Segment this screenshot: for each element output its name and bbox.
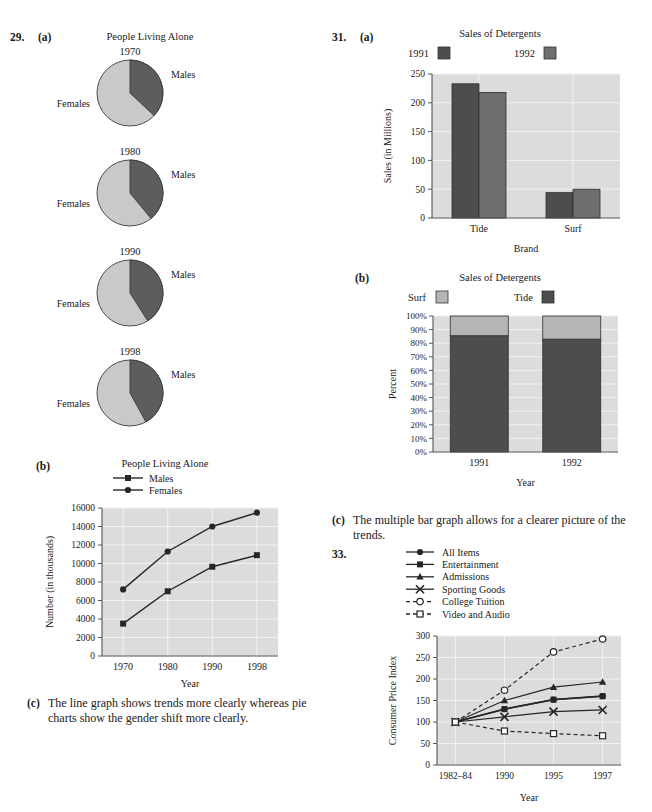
question-29-part-b-label: (b)	[36, 460, 50, 472]
line-chart-left-legend: MalesFemales	[105, 471, 245, 497]
svg-text:1998: 1998	[120, 346, 141, 357]
line-chart-left-title: People Living Alone	[70, 458, 260, 469]
svg-text:Sales (in Millions): Sales (in Millions)	[382, 109, 394, 183]
svg-text:1991: 1991	[469, 457, 489, 468]
pie-label-females: Females	[57, 398, 90, 409]
svg-text:Percent: Percent	[387, 369, 398, 399]
svg-text:Males: Males	[171, 369, 196, 380]
svg-text:10%: 10%	[411, 434, 428, 444]
svg-text:100: 100	[411, 156, 426, 166]
svg-text:1991: 1991	[408, 48, 429, 59]
svg-text:100%: 100%	[406, 311, 428, 321]
pie-label-females: Females	[57, 98, 90, 109]
svg-text:1982–84: 1982–84	[439, 771, 473, 781]
stacked-chart-title: Sales of Detergents	[400, 272, 600, 283]
svg-text:50%: 50%	[411, 379, 428, 389]
svg-text:12000: 12000	[71, 540, 95, 550]
svg-text:8000: 8000	[76, 577, 95, 587]
svg-text:300: 300	[416, 631, 431, 641]
cpi-chart-legend: All ItemsEntertainmentAdmissionsSporting…	[400, 545, 600, 625]
question-29-answer-text: The line graph shows trends more clearly…	[48, 696, 310, 725]
pie-label-females: Females	[57, 298, 90, 309]
question-31-answer-text: The multiple bar graph allows for a clea…	[353, 513, 633, 542]
svg-text:Males: Males	[149, 473, 174, 484]
svg-text:50: 50	[416, 185, 426, 195]
line-chart-consumer-price-index: 0501001502002503001982–84199019951997Yea…	[385, 630, 635, 805]
question-31-part-a-label: (a)	[360, 31, 373, 43]
pie-svg: 1970MalesFemales1980MalesFemales1990Male…	[60, 45, 250, 450]
svg-text:1970: 1970	[113, 661, 133, 672]
line-chart-people-living-alone: 0200040006000800010000120001400016000197…	[40, 500, 290, 690]
svg-text:1970: 1970	[120, 46, 141, 57]
svg-text:2000: 2000	[76, 633, 95, 643]
svg-text:Males: Males	[171, 269, 196, 280]
svg-text:Number (in thousands): Number (in thousands)	[44, 536, 56, 628]
stacked-chart-legend: SurfTide	[400, 288, 610, 306]
svg-text:Males: Males	[171, 69, 196, 80]
svg-text:1998: 1998	[247, 661, 267, 672]
svg-text:Males: Males	[171, 169, 196, 180]
bar-chart-legend: 19911992	[400, 44, 610, 62]
svg-text:Surf: Surf	[408, 292, 427, 303]
svg-text:Tide: Tide	[470, 223, 489, 234]
svg-text:All Items: All Items	[442, 547, 480, 558]
pie-label-females: Females	[57, 198, 90, 209]
svg-text:50: 50	[421, 739, 431, 749]
pie-chart-group: 1970MalesFemales1980MalesFemales1990Male…	[60, 45, 250, 450]
svg-text:1990: 1990	[495, 771, 514, 781]
pie-group-title: People Living Alone	[60, 31, 240, 42]
svg-text:1997: 1997	[593, 771, 612, 781]
svg-text:Sporting Goods: Sporting Goods	[442, 584, 505, 595]
svg-text:Entertainment: Entertainment	[442, 559, 499, 570]
svg-text:1992: 1992	[514, 48, 535, 59]
svg-text:10000: 10000	[71, 559, 95, 569]
svg-text:Surf: Surf	[564, 223, 582, 234]
svg-text:80%: 80%	[411, 338, 428, 348]
svg-text:Year: Year	[516, 477, 535, 488]
svg-text:0: 0	[425, 760, 430, 770]
svg-text:College Tuition: College Tuition	[442, 596, 505, 607]
svg-text:70%: 70%	[411, 352, 428, 362]
svg-text:150: 150	[416, 696, 431, 706]
svg-text:Consumer Price Index: Consumer Price Index	[387, 656, 398, 745]
svg-text:1995: 1995	[544, 771, 563, 781]
question-number-31: 31.	[332, 31, 346, 43]
svg-text:Females: Females	[149, 485, 182, 496]
svg-text:250: 250	[411, 69, 426, 79]
answer-key-page: 29. (a) People Living Alone 1970MalesFem…	[0, 0, 652, 812]
svg-text:40%: 40%	[411, 393, 428, 403]
svg-text:0: 0	[90, 651, 95, 661]
svg-text:60%: 60%	[411, 366, 428, 376]
svg-text:1990: 1990	[120, 246, 141, 257]
svg-text:Admissions: Admissions	[442, 571, 489, 582]
svg-text:200: 200	[411, 98, 426, 108]
svg-text:4000: 4000	[76, 614, 95, 624]
svg-text:16000: 16000	[71, 503, 95, 513]
svg-text:0: 0	[420, 213, 425, 223]
svg-text:100: 100	[416, 717, 431, 727]
svg-text:1980: 1980	[120, 146, 141, 157]
question-31-part-b-label: (b)	[355, 272, 369, 284]
svg-text:200: 200	[416, 674, 431, 684]
question-number-29: 29.	[10, 31, 24, 43]
svg-text:250: 250	[416, 653, 431, 663]
question-number-33: 33.	[332, 548, 346, 560]
svg-text:20%: 20%	[411, 420, 428, 430]
question-31-part-c-label: (c)	[332, 514, 345, 526]
stacked-bar-chart-sales-of-detergents: 0%10%20%30%40%50%60%70%80%90%100%1991199…	[385, 310, 630, 490]
svg-text:Brand: Brand	[514, 243, 538, 254]
svg-text:6000: 6000	[76, 596, 95, 606]
svg-text:1980: 1980	[158, 661, 178, 672]
question-29-part-c-label: (c)	[27, 697, 40, 709]
svg-text:Tide: Tide	[514, 292, 533, 303]
svg-text:14000: 14000	[71, 522, 95, 532]
svg-text:Year: Year	[520, 792, 539, 803]
svg-text:Video and Audio: Video and Audio	[442, 609, 510, 620]
svg-text:0%: 0%	[415, 447, 428, 457]
svg-text:1990: 1990	[202, 661, 222, 672]
svg-text:30%: 30%	[411, 406, 428, 416]
svg-text:1992: 1992	[562, 457, 582, 468]
svg-text:90%: 90%	[411, 325, 428, 335]
bar-chart-sales-of-detergents: 050100150200250TideSurfBrandSales (in Mi…	[380, 66, 630, 256]
svg-text:Year: Year	[181, 678, 200, 689]
